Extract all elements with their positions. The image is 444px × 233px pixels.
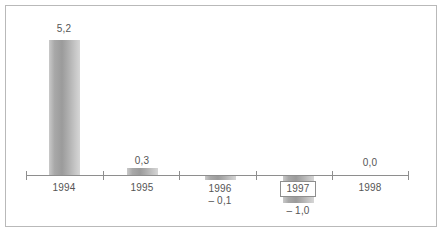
bar-1996 xyxy=(205,176,236,180)
axis-tick-5 xyxy=(408,171,409,180)
bar-1994 xyxy=(49,40,80,175)
value-label-1994: 5,2 xyxy=(29,23,99,34)
axis-tick-3 xyxy=(256,171,257,180)
axis-tick-2 xyxy=(179,171,180,180)
value-label-1997: – 1,0 xyxy=(263,205,333,216)
value-label-1995: 0,3 xyxy=(107,155,177,166)
axis-tick-4 xyxy=(332,171,333,180)
value-label-1996: – 0,1 xyxy=(185,195,255,206)
category-label-1995: 1995 xyxy=(107,182,177,193)
category-label-1998: 1998 xyxy=(335,182,405,193)
category-label-1997: 1997 xyxy=(280,181,316,197)
bar-1995 xyxy=(127,168,158,175)
chart-figure: 5,2 1994 0,3 1995 1996 – 0,1 1997 – 1,0 … xyxy=(0,0,444,233)
category-label-1996: 1996 xyxy=(185,183,255,194)
axis-tick-0 xyxy=(26,171,27,180)
category-label-1994: 1994 xyxy=(29,182,99,193)
chart-plot-area: 5,2 1994 0,3 1995 1996 – 0,1 1997 – 1,0 … xyxy=(0,0,444,233)
axis-tick-1 xyxy=(103,171,104,180)
value-label-1998: 0,0 xyxy=(335,157,405,168)
